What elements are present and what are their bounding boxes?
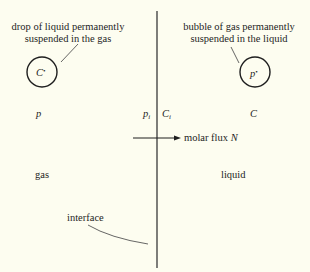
drop-leader-line bbox=[61, 44, 78, 62]
interface-leader-line bbox=[88, 225, 148, 244]
drop-caption: drop of liquid permanently suspended in … bbox=[4, 21, 132, 45]
bulk-liquid-concentration-label: C bbox=[250, 108, 257, 120]
interface-label: interface bbox=[67, 212, 104, 224]
interface-gas-pressure-label: pi bbox=[143, 108, 150, 123]
drop-concentration-label: C• bbox=[36, 65, 45, 79]
liquid-region-label: liquid bbox=[221, 169, 246, 181]
molar-flux-label: molar flux N bbox=[184, 132, 238, 144]
bubble-caption-line2: suspended in the liquid bbox=[174, 33, 304, 45]
drop-caption-line2: suspended in the gas bbox=[4, 33, 132, 45]
bubble-leader-line bbox=[231, 47, 239, 63]
bulk-gas-pressure-label: p bbox=[36, 108, 41, 120]
bubble-caption-line1: bubble of gas permanently bbox=[174, 21, 304, 33]
bubble-caption: bubble of gas permanently suspended in t… bbox=[174, 21, 304, 45]
interface-liquid-concentration-label: Ci bbox=[162, 108, 171, 123]
gas-liquid-interface-diagram: drop of liquid permanently suspended in … bbox=[0, 0, 310, 272]
bubble-pressure-label: p• bbox=[250, 66, 258, 80]
gas-region-label: gas bbox=[35, 169, 49, 181]
drop-caption-line1: drop of liquid permanently bbox=[4, 21, 132, 33]
flux-arrowhead-icon bbox=[174, 136, 181, 141]
